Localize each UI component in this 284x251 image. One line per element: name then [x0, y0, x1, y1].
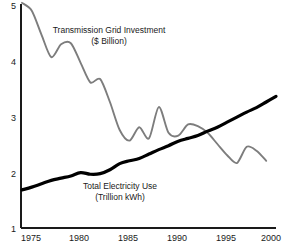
- x-tick-label-2000: 2000: [255, 233, 284, 243]
- x-tick-label-1985: 1985: [112, 233, 144, 243]
- x-tick-label-1980: 1980: [63, 233, 95, 243]
- y-tick-label-3: 3: [4, 113, 16, 123]
- series-line-total-electricity-use: [22, 96, 276, 190]
- transmission-grid-investment-annotation: Transmission Grid Investment ($ Billion): [39, 25, 179, 47]
- x-tick-label-1990: 1990: [161, 233, 193, 243]
- grid-investment-label-line1: Transmission Grid Investment: [53, 25, 166, 35]
- x-tick-label-1995: 1995: [210, 233, 242, 243]
- electricity-use-label-line1: Total Electricity Use: [83, 181, 157, 191]
- chart-container: 5 4 3 2 1 1975 1980 1985 1990 1995 2000 …: [0, 0, 284, 251]
- y-tick-label-4: 4: [4, 57, 16, 67]
- electricity-use-label-line2: (Trillion kWh): [60, 192, 180, 203]
- total-electricity-use-annotation: Total Electricity Use (Trillion kWh): [60, 181, 180, 203]
- x-tick-label-1975: 1975: [15, 233, 47, 243]
- y-tick-label-2: 2: [4, 169, 16, 179]
- y-tick-label-5: 5: [4, 1, 16, 11]
- grid-investment-label-line2: ($ Billion): [39, 36, 179, 47]
